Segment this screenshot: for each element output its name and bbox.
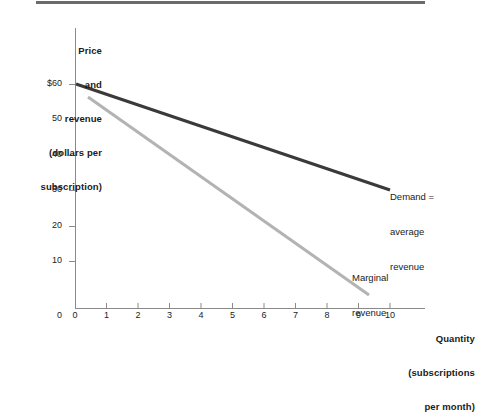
demand-series-label-line-1: Demand =	[390, 191, 476, 203]
marginal-revenue-series-label-line-1: Marginal	[352, 272, 432, 284]
y-tick-label-10: 10	[22, 255, 62, 266]
y-tick-label-60: $60	[22, 78, 62, 89]
x-axis-title-line-2: (subscriptions	[300, 367, 475, 378]
x-tick-label-3: 3	[160, 310, 180, 321]
y-tick-label-40: 40	[22, 149, 62, 160]
y-tick-label-20: 20	[22, 220, 62, 231]
y-tick-label-50: 50	[22, 113, 62, 124]
x-axis-title-line-3: per month)	[300, 401, 475, 412]
x-tick-label-8: 8	[317, 310, 337, 321]
demand-average-revenue-line	[76, 84, 390, 190]
x-tick-label-5: 5	[223, 310, 243, 321]
marginal-revenue-series-label: Marginal revenue	[352, 249, 432, 342]
x-tick-label-1: 1	[97, 310, 117, 321]
x-tick-label-4: 4	[191, 310, 211, 321]
x-tick-label-6: 6	[254, 310, 274, 321]
marginal-revenue-series-label-line-2: revenue	[352, 307, 432, 319]
x-tick-label-7: 7	[286, 310, 306, 321]
demand-series-label-line-2: average	[390, 226, 476, 238]
y-tick-label-0: 0	[22, 310, 62, 321]
marginal-revenue-line	[88, 97, 369, 295]
y-tick-label-30: 30	[22, 184, 62, 195]
y-axis-title-line-1: Price	[0, 45, 102, 56]
x-tick-label-0: 0	[65, 310, 85, 321]
x-tick-label-2: 2	[128, 310, 148, 321]
